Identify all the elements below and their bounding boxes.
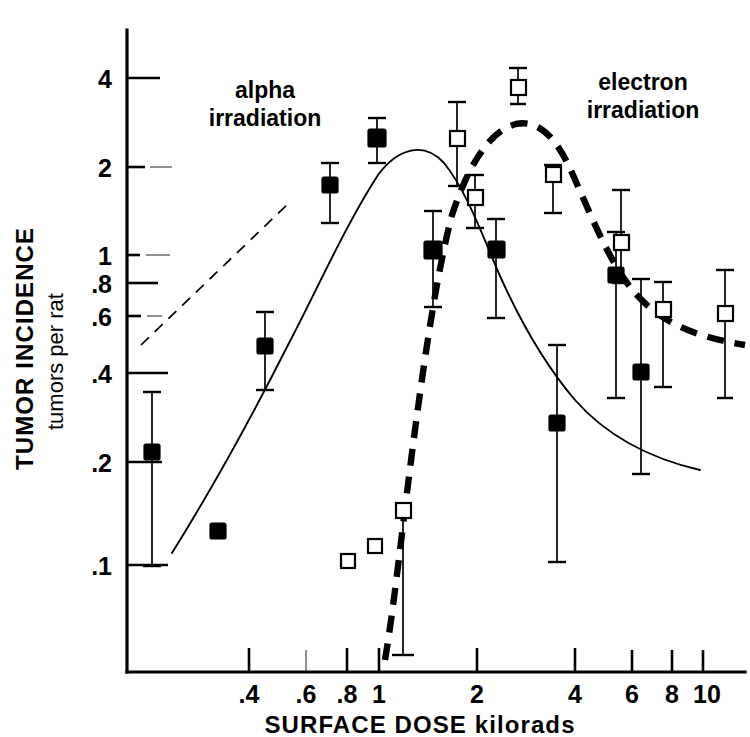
annotation-alpha-irradiation: alpha irradiation [209, 77, 321, 131]
figure-root: 4 2 1 .8 .6 .4 .2 .1 [0, 0, 750, 737]
y-tick-label-0p1: .1 [91, 552, 112, 580]
x-tick-label-1: 1 [372, 680, 386, 708]
electron-fit-dashed-curve [385, 123, 745, 660]
marker-filled-square-alpha-7 [549, 415, 565, 431]
data-point-alpha-1[interactable] [210, 523, 226, 539]
marker-open-square-electron-1 [368, 539, 382, 553]
marker-filled-square-alpha-3 [322, 177, 338, 193]
annotation-electron-line1: electron [598, 69, 687, 95]
data-point-alpha-0[interactable] [143, 392, 161, 566]
data-point-alpha-6[interactable] [487, 219, 505, 318]
x-tick-label-2: 2 [470, 680, 484, 708]
y-tick-label-0p8: .8 [91, 270, 112, 298]
y-tick-label-1: 1 [98, 242, 112, 270]
y-axis-ticks: 4 2 1 .8 .6 .4 .2 .1 [91, 65, 172, 580]
annotation-alpha-line2: irradiation [209, 105, 321, 131]
data-point-electron-6[interactable] [544, 165, 562, 213]
data-point-electron-1[interactable] [368, 539, 382, 553]
x-axis-ticks: .4 .6 .8 1 2 4 6 8 10 [239, 648, 721, 708]
marker-open-square-electron-6 [546, 167, 561, 182]
x-tick-label-0p8: .8 [337, 680, 358, 708]
annotation-electron-irradiation: electron irradiation [587, 69, 699, 123]
data-point-alpha-9[interactable] [632, 279, 650, 474]
x-tick-label-10: 10 [693, 680, 721, 708]
data-point-alpha-3[interactable] [321, 163, 339, 223]
data-point-electron-8[interactable] [654, 282, 672, 387]
marker-filled-square-alpha-9 [633, 364, 649, 380]
alpha-low-dose-extrapolation-curve [141, 201, 291, 345]
x-axis-title: SURFACE DOSE kilorads [264, 711, 575, 737]
y-axis-title-group: TUMOR INCIDENCE tumors per rat [11, 227, 68, 470]
marker-filled-square-alpha-4 [368, 129, 386, 147]
data-point-electron-5[interactable] [509, 68, 527, 104]
x-tick-label-8: 8 [665, 680, 679, 708]
marker-filled-square-alpha-1 [210, 523, 226, 539]
x-tick-label-0p4: .4 [239, 680, 260, 708]
marker-open-square-electron-0 [341, 554, 355, 568]
x-tick-label-0p6: .6 [296, 680, 317, 708]
x-tick-label-4: 4 [568, 680, 582, 708]
marker-open-square-electron-8 [656, 302, 671, 317]
marker-filled-square-alpha-0 [144, 444, 160, 460]
y-tick-label-0p6: .6 [91, 303, 112, 331]
marker-open-square-electron-2 [396, 503, 411, 518]
data-point-electron-4[interactable] [466, 175, 484, 228]
marker-filled-square-alpha-6 [488, 241, 505, 258]
series-alpha-irradiation [143, 118, 650, 566]
marker-open-square-electron-4 [468, 190, 483, 205]
y-tick-label-2: 2 [98, 154, 112, 182]
data-point-electron-0[interactable] [341, 554, 355, 568]
fitted-curves-group [141, 123, 745, 660]
data-point-alpha-4[interactable] [368, 118, 386, 163]
marker-open-square-electron-5 [511, 80, 526, 95]
y-tick-label-0p4: .4 [91, 360, 112, 388]
y-axis-title-sub: tumors per rat [43, 293, 68, 430]
y-axis-title-main: TUMOR INCIDENCE [11, 227, 38, 470]
data-point-electron-2[interactable] [392, 503, 414, 655]
annotation-electron-line2: irradiation [587, 97, 699, 123]
marker-open-square-electron-9 [718, 306, 733, 321]
marker-filled-square-alpha-2 [257, 338, 273, 354]
y-tick-label-0p2: .2 [91, 449, 112, 477]
data-point-alpha-5[interactable] [424, 211, 442, 307]
data-point-alpha-7[interactable] [548, 345, 566, 562]
data-point-electron-9[interactable] [716, 270, 734, 398]
marker-open-square-electron-7 [614, 235, 629, 250]
marker-filled-square-alpha-5 [424, 241, 442, 259]
tumor-incidence-chart: 4 2 1 .8 .6 .4 .2 .1 [0, 0, 750, 737]
x-tick-label-6: 6 [625, 680, 639, 708]
y-tick-label-4: 4 [98, 65, 112, 93]
marker-open-square-electron-3 [450, 131, 465, 146]
annotation-alpha-line1: alpha [235, 77, 295, 103]
